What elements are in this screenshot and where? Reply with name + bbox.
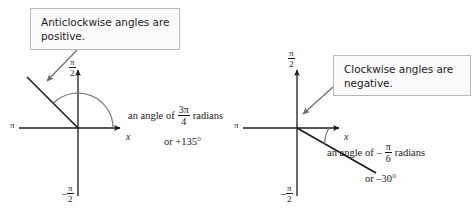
half-pi-denominator: 2 xyxy=(69,68,76,78)
angle-arc xyxy=(53,93,113,128)
half-pi-denominator: 2 xyxy=(288,59,295,69)
terminal-ray xyxy=(27,77,78,128)
y-axis-negative-half-pi-label: – π 2 xyxy=(62,183,74,204)
half-pi-numerator: π xyxy=(286,183,293,194)
annotation-degrees: or +135° xyxy=(164,136,201,147)
callout-pointer-arrow xyxy=(303,87,333,114)
left-axis-pi-label: π xyxy=(10,120,15,130)
half-pi-denominator: 2 xyxy=(67,194,74,204)
y-axis-positive-half-pi-label: π 2 xyxy=(288,48,295,69)
y-axis-positive-half-pi-label: π 2 xyxy=(69,57,76,78)
annotation-sign: – xyxy=(377,147,382,158)
annotation-numerator: π xyxy=(385,141,392,153)
annotation-numerator: 3π xyxy=(178,104,190,116)
annotation-denominator: 4 xyxy=(178,116,190,127)
callout-anticlockwise: Anticlockwise angles are positive. xyxy=(30,8,180,50)
annotation-suffix: radians xyxy=(193,110,223,121)
half-pi-numerator: π xyxy=(69,57,76,68)
callout-anticlockwise-line1: Anticlockwise angles are xyxy=(41,16,170,30)
half-pi-denominator: 2 xyxy=(286,194,293,204)
callout-clockwise-line2: negative. xyxy=(344,77,461,91)
half-pi-numerator: π xyxy=(288,48,295,59)
left-axis-pi-label: π xyxy=(234,120,239,130)
annotation-prefix: an angle of xyxy=(327,147,374,158)
callout-anticlockwise-line2: positive. xyxy=(41,30,170,44)
callout-clockwise: Clockwise angles are negative. xyxy=(333,55,471,96)
annotation-prefix: an angle of xyxy=(128,110,175,121)
positive-angle-annotation: an angle of 3π 4 radians or +135° xyxy=(128,104,223,147)
negative-angle-annotation: an angle of – π 6 radians or –30° xyxy=(327,141,425,184)
y-axis-negative-half-pi-label: – π 2 xyxy=(281,183,293,204)
callout-clockwise-line1: Clockwise angles are xyxy=(344,63,461,77)
annotation-suffix: radians xyxy=(395,147,425,158)
annotation-degrees: or –30° xyxy=(365,173,396,184)
half-pi-numerator: π xyxy=(67,183,74,194)
annotation-denominator: 6 xyxy=(385,153,392,164)
